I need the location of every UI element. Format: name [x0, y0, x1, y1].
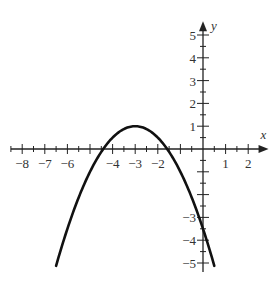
x-tick-label: 1 [222, 156, 229, 171]
x-tick-label: −4 [106, 156, 120, 171]
x-tick-label: −8 [15, 156, 29, 171]
x-tick-label: −2 [151, 156, 165, 171]
y-tick-label: 3 [190, 74, 197, 89]
y-axis-arrow-icon [199, 21, 207, 31]
x-axis-label: x [260, 127, 267, 142]
y-tick-label: −4 [182, 233, 196, 248]
x-tick-label: −3 [128, 156, 142, 171]
y-tick-label: −5 [182, 256, 196, 271]
y-tick-label: 5 [190, 28, 197, 43]
y-axis-label: y [209, 18, 217, 33]
y-tick-label: 2 [190, 96, 197, 111]
x-tick-label: −7 [38, 156, 52, 171]
x-tick-label: 2 [245, 156, 252, 171]
x-tick-label: −6 [60, 156, 74, 171]
y-tick-label: 1 [190, 119, 197, 134]
chart-container: −8−7−6−4−3−21254321−3−4−5xy [0, 0, 276, 283]
x-axis-arrow-icon [259, 145, 269, 153]
parabola-plot: −8−7−6−4−3−21254321−3−4−5xy [0, 0, 276, 283]
y-tick-label: 4 [190, 51, 197, 66]
y-tick-label: −3 [182, 210, 196, 225]
